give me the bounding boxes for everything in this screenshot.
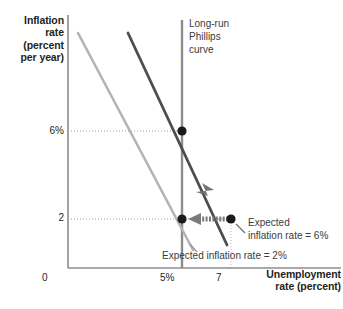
- short-run-phillips-curve-low-line: [78, 33, 193, 250]
- origin-label: 0: [42, 272, 48, 284]
- data-point-5-2: [177, 214, 186, 223]
- expected-inflation-2-label: Expected inflation rate = 2%: [162, 250, 287, 262]
- y-axis-title: Inflation rate (percent per year): [2, 14, 64, 64]
- short-run-phillips-curve-high-line: [128, 33, 227, 245]
- y-axis-tick-label-6: 6%: [30, 125, 64, 137]
- x-axis-title: Unemployment rate (percent): [243, 268, 341, 293]
- data-point-7-2: [226, 214, 235, 223]
- data-point-5-6: [177, 126, 186, 135]
- phillips-curve-figure: Inflation rate (percent per year) Unempl…: [0, 0, 343, 309]
- x-axis-tick-label-5: 5%: [160, 272, 174, 284]
- leader-line-expected-6: [236, 224, 245, 233]
- y-axis-tick-label-2: 2: [30, 212, 64, 224]
- x-axis-tick-label-7: 7: [216, 272, 222, 284]
- long-run-phillips-curve-label: Long-run Phillips curve: [189, 17, 229, 57]
- expected-inflation-6-label: Expected inflation rate = 6%: [248, 216, 328, 242]
